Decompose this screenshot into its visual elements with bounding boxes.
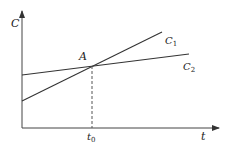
diagram-canvas: C t A C1 C2 t0 bbox=[0, 0, 231, 149]
c1-label: C1 bbox=[165, 35, 177, 48]
x-axis-label: t bbox=[201, 130, 206, 143]
c2-label-sub: 2 bbox=[191, 66, 195, 74]
line-c2 bbox=[22, 54, 189, 75]
intersection-label: A bbox=[78, 50, 87, 63]
t0-label: t0 bbox=[87, 131, 96, 144]
c1-label-sub: 1 bbox=[173, 40, 177, 48]
t0-label-sub: 0 bbox=[91, 136, 95, 144]
y-axis-label: C bbox=[11, 17, 20, 30]
c2-label: C2 bbox=[183, 61, 195, 74]
